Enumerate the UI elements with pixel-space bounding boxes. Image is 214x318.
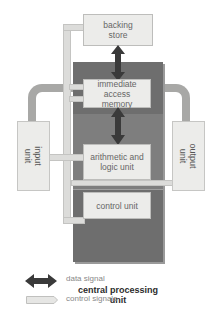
output-unit-label-2: unit (178, 126, 188, 186)
memory-label-1: immediate access (84, 79, 150, 99)
control-bus-to-output (71, 180, 174, 186)
control-bus-vertical (63, 24, 71, 224)
control-bus-to-control-unit (63, 217, 85, 224)
input-unit-label-2: unit (23, 126, 33, 186)
alu-label-1: arithmetic and (90, 152, 143, 162)
backing-store-label-1: backing (103, 20, 132, 30)
alu-label-2: logic unit (90, 162, 143, 172)
memory-box: immediate access memory (83, 79, 151, 108)
cpu-band (73, 189, 163, 190)
control-unit-box: control unit (83, 192, 151, 219)
input-unit-label: input unit (23, 126, 43, 186)
control-bus-to-backing-store (63, 24, 85, 31)
control-signal-legend-icon (26, 296, 58, 304)
control-unit-label: control unit (96, 201, 138, 211)
data-arrow-backing-memory (110, 45, 126, 81)
control-signal-legend-label: control signals (66, 294, 117, 303)
input-unit-label-1: input (33, 126, 43, 186)
data-signal-legend-label: data signal (66, 274, 105, 283)
alu-box: arithmetic and logic unit (83, 144, 151, 180)
backing-store-box: backing store (83, 14, 153, 46)
control-bus-input-to-alu (48, 154, 85, 161)
backing-store-label-2: store (103, 30, 132, 40)
output-unit-label: output unit (178, 126, 198, 186)
data-arrow-memory-alu (110, 107, 126, 145)
data-signal-legend-icon (25, 274, 57, 288)
output-unit-label-1: output (188, 126, 198, 186)
